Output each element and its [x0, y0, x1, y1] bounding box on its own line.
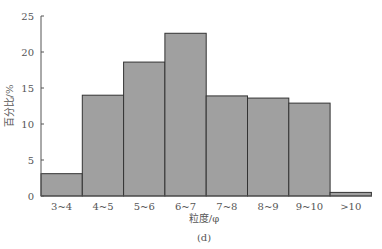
x-tick-label: 6~7 [175, 201, 196, 212]
x-ticks: 3~44~55~66~77~88~99~10>10 [51, 201, 361, 212]
y-tick-label: 15 [21, 83, 34, 94]
bar [165, 33, 206, 196]
x-tick-label: 3~4 [51, 201, 72, 212]
x-tick-label: 8~9 [258, 201, 279, 212]
y-tick-label: 10 [21, 119, 34, 130]
caption: (d) [197, 232, 211, 243]
bar [206, 96, 247, 196]
bar [248, 98, 289, 196]
x-tick-label: 4~5 [92, 201, 113, 212]
y-tick-label: 20 [21, 47, 34, 58]
y-tick-label: 5 [28, 155, 34, 166]
bar [41, 174, 82, 196]
y-tick-label: 25 [21, 11, 34, 22]
y-axis-label: 百分比/% [4, 85, 15, 128]
y-tick-label: 0 [28, 191, 34, 202]
x-tick-label: >10 [340, 201, 361, 212]
bar [124, 62, 165, 196]
bar [289, 103, 330, 196]
x-tick-label: 5~6 [134, 201, 155, 212]
bar [330, 192, 371, 196]
x-axis-label: 粒度/φ [189, 212, 219, 224]
x-tick-label: 7~8 [216, 201, 237, 212]
x-tick-label: 9~10 [296, 201, 323, 212]
histogram-chart: 0510152025 3~44~55~66~77~88~99~10>10 百分比… [0, 0, 382, 249]
bar [82, 95, 123, 196]
bars [41, 33, 371, 196]
